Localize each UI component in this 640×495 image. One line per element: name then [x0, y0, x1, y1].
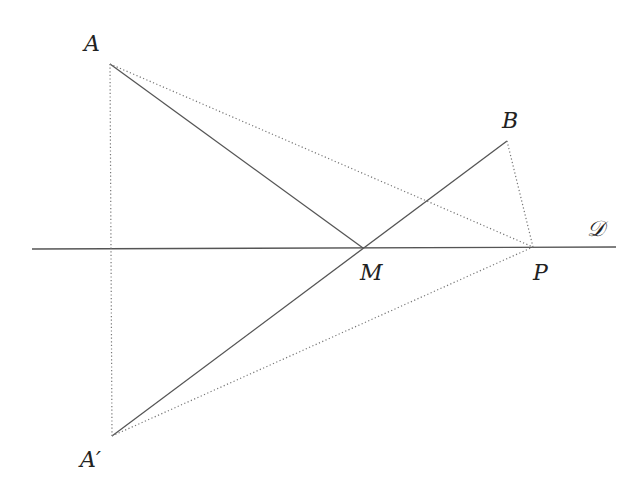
- segment-a-aprime-dotted: [110, 64, 112, 436]
- segment-aprime-b: [112, 141, 507, 436]
- segment-b-p-dotted: [507, 141, 533, 247]
- point-label-a: A: [82, 31, 100, 56]
- point-label-b: B: [501, 108, 518, 133]
- point-label-m: M: [359, 260, 383, 285]
- segment-aprime-p-dotted: [112, 247, 533, 436]
- line-d: [32, 247, 616, 249]
- reflection-diagram: A B M P A′ 𝒟: [0, 0, 640, 495]
- segment-a-p-dotted: [110, 64, 533, 247]
- point-label-p: P: [532, 260, 549, 285]
- segment-a-m: [110, 64, 363, 248]
- point-label-a-prime: A′: [78, 447, 101, 472]
- line-label-d: 𝒟: [587, 216, 609, 241]
